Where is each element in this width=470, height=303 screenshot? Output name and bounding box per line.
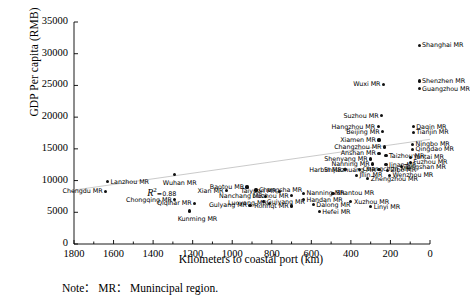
point-marker [412, 131, 415, 134]
point-marker [409, 156, 412, 159]
point-marker [418, 79, 421, 82]
point-label: Suzhou MR [344, 112, 379, 120]
y-tick-0: 0 [20, 237, 68, 248]
point-label: Qiqihar MR [157, 199, 192, 207]
r-squared: R2=0.88 [147, 186, 176, 198]
x-tick-200: 200 [370, 248, 410, 259]
point-marker [383, 145, 386, 148]
y-tick-35000: 35000 [20, 15, 68, 26]
point-label: Zhengzhou MR [371, 175, 418, 183]
point-label: Lanzhou MR [111, 178, 149, 186]
point-label: Wuxi MR [353, 80, 380, 88]
x-tick-1400: 1400 [133, 248, 173, 259]
x-tick-0: 0 [410, 248, 450, 259]
point-marker [377, 138, 380, 141]
point-label: Linyi MR [374, 203, 401, 211]
point-label: Guangzhou MR [422, 85, 470, 93]
point-marker [188, 209, 191, 212]
y-tick-25000: 25000 [20, 78, 68, 89]
y-tick-5000: 5000 [20, 205, 68, 216]
y-tick-10000: 10000 [20, 174, 68, 185]
point-label: Beijing MR [346, 128, 379, 136]
point-label: Shantou MR [336, 189, 374, 197]
x-tick-800: 800 [252, 248, 292, 259]
point-label: Shanghai MR [422, 41, 463, 49]
point-label: Tianjin MR [416, 128, 449, 136]
point-label: Baotou MR [210, 183, 244, 191]
point-marker [290, 204, 293, 207]
point-marker [418, 44, 421, 47]
point-label: Hefei MR [322, 208, 350, 216]
point-marker [302, 192, 305, 195]
point-marker [331, 192, 334, 195]
y-tick-15000: 15000 [20, 142, 68, 153]
x-tick-1200: 1200 [173, 248, 213, 259]
y-tick-30000: 30000 [20, 47, 68, 58]
point-marker [382, 83, 385, 86]
point-marker [377, 152, 380, 155]
x-tick-400: 400 [331, 248, 371, 259]
point-label: Chengdu MR [62, 187, 102, 195]
y-tick-20000: 20000 [20, 110, 68, 121]
x-tick-1000: 1000 [212, 248, 252, 259]
point-marker [418, 87, 421, 90]
point-label: Harbin MR [309, 166, 342, 174]
x-tick-600: 600 [291, 248, 331, 259]
point-label: Kunming MR [178, 215, 218, 223]
point-label: Ronhqt MR [254, 202, 288, 210]
point-marker [412, 125, 415, 128]
x-tick-1600: 1600 [94, 248, 134, 259]
x-tick-1800: 1800 [54, 248, 94, 259]
